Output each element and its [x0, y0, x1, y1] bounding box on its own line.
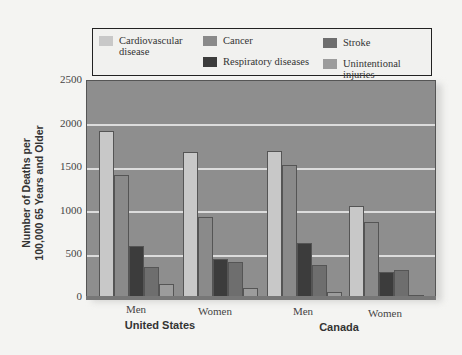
- bar-cardiovascular-disease-canada-men: [267, 151, 282, 297]
- chart-legend: Cardiovasculardisease Cancer Respiratory…: [92, 28, 432, 76]
- bar-cardiovascular-disease-united-states-women: [183, 152, 198, 297]
- bar-cardiovascular-disease-united-states-men: [99, 131, 114, 297]
- xgroup-united-states: United States: [100, 319, 220, 331]
- bar-stroke-united-states-women: [228, 262, 243, 297]
- bar-respiratory-diseases-canada-men: [297, 243, 312, 297]
- gridline-1000: [87, 211, 435, 213]
- bar-stroke-united-states-men: [144, 267, 159, 297]
- xcat-us-women: Women: [185, 305, 245, 317]
- plot-background: [86, 80, 436, 298]
- xcat-us-men: Men: [106, 303, 166, 315]
- ytick-2500: 2500: [42, 73, 82, 85]
- legend-item-unintentional: Unintentional injuries: [323, 58, 431, 80]
- legend-label-respiratory: Respiratory diseases: [223, 56, 309, 67]
- bar-cancer-canada-women: [364, 222, 379, 297]
- ytick-1500: 1500: [42, 160, 82, 172]
- legend-swatch-unintentional: [323, 59, 337, 69]
- legend-swatch-stroke: [323, 38, 337, 48]
- ytick-1000: 1000: [42, 204, 82, 216]
- xgroup-canada: Canada: [279, 321, 399, 333]
- chart-floor: [86, 296, 436, 300]
- bar-respiratory-diseases-united-states-women: [213, 259, 228, 297]
- legend-swatch-respiratory: [203, 57, 217, 67]
- bar-cancer-canada-men: [282, 165, 297, 297]
- legend-label-stroke: Stroke: [343, 37, 370, 48]
- legend-item-stroke: Stroke: [323, 37, 370, 48]
- legend-swatch-cardiovascular: [99, 36, 113, 46]
- gridline-1500: [87, 168, 435, 170]
- ytick-500: 500: [42, 247, 82, 259]
- bar-respiratory-diseases-canada-women: [379, 272, 394, 297]
- legend-item-respiratory: Respiratory diseases: [203, 56, 309, 67]
- xcat-ca-women: Women: [355, 307, 415, 319]
- bar-stroke-canada-men: [312, 265, 327, 297]
- legend-label-cardiovascular: Cardiovasculardisease: [119, 35, 183, 57]
- bar-respiratory-diseases-united-states-men: [129, 246, 144, 297]
- legend-label-unintentional: Unintentional injuries: [343, 58, 431, 80]
- bar-cancer-united-states-women: [198, 217, 213, 297]
- legend-label-cancer: Cancer: [223, 35, 253, 46]
- legend-swatch-cancer: [203, 36, 217, 46]
- ytick-2000: 2000: [42, 117, 82, 129]
- legend-item-cardiovascular: Cardiovasculardisease: [99, 35, 183, 57]
- plot-area: [86, 80, 436, 298]
- xcat-ca-men: Men: [273, 305, 333, 317]
- bar-cancer-united-states-men: [114, 175, 129, 297]
- bar-stroke-canada-women: [394, 270, 409, 297]
- ytick-0: 0: [42, 290, 82, 302]
- bar-cardiovascular-disease-canada-women: [349, 206, 364, 297]
- gridline-2000: [87, 124, 435, 126]
- y-axis-label: Number of Deaths per100,000 65 Years and…: [20, 118, 46, 268]
- legend-item-cancer: Cancer: [203, 35, 253, 46]
